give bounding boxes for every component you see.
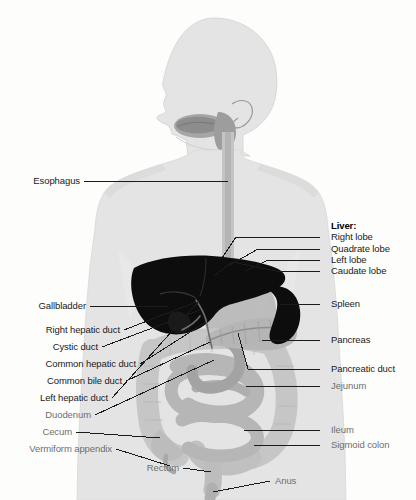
leader-common-hepatic-duct bbox=[140, 322, 206, 364]
label-right-hepatic-duct-text: Right hepatic duct bbox=[46, 324, 120, 335]
label-gallbladder-text: Gallbladder bbox=[39, 300, 87, 311]
label-jejunum-text: Jejunum bbox=[331, 380, 366, 391]
label-left-hepatic-duct-text: Left hepatic duct bbox=[40, 392, 108, 403]
label-pancreatic-duct[interactable]: Pancreatic duct bbox=[331, 363, 395, 374]
label-cecum-text: Cecum bbox=[42, 426, 72, 437]
leader-right-lobe bbox=[222, 237, 320, 258]
label-rectum[interactable]: Rectum bbox=[95, 462, 179, 473]
label-cystic-duct[interactable]: Cystic duct bbox=[0, 341, 98, 352]
leader-anus bbox=[213, 481, 270, 492]
label-ileum[interactable]: Ileum bbox=[331, 424, 354, 435]
label-anus-text: Anus bbox=[275, 475, 296, 486]
leader-common-bile-duct bbox=[126, 342, 210, 381]
label-caudate-lobe[interactable]: Caudate lobe bbox=[331, 265, 386, 276]
leader-cecum bbox=[76, 432, 160, 438]
label-pancreatic-duct-text: Pancreatic duct bbox=[331, 363, 395, 374]
label-esophagus-text: Esophagus bbox=[33, 175, 80, 186]
label-spleen-text: Spleen bbox=[331, 298, 360, 309]
label-common-hepatic-duct[interactable]: Common hepatic duct bbox=[0, 358, 136, 369]
label-left-lobe-text: Left lobe bbox=[331, 254, 367, 265]
label-sigmoid-colon-text: Sigmoid colon bbox=[331, 439, 389, 450]
label-common-bile-duct[interactable]: Common bile duct bbox=[0, 375, 122, 386]
label-pancreas-text: Pancreas bbox=[331, 334, 370, 345]
label-gallbladder[interactable]: Gallbladder bbox=[0, 300, 86, 311]
leader-left-hepatic-duct bbox=[112, 300, 200, 398]
label-quadrate-lobe-text: Quadrate lobe bbox=[331, 243, 390, 254]
leader-pancreatic-duct bbox=[238, 333, 320, 369]
label-caudate-lobe-text: Caudate lobe bbox=[331, 265, 386, 276]
label-left-hepatic-duct[interactable]: Left hepatic duct bbox=[0, 392, 108, 403]
label-ileum-text: Ileum bbox=[331, 424, 354, 435]
leader-quadrate-lobe bbox=[228, 249, 320, 266]
label-quadrate-lobe[interactable]: Quadrate lobe bbox=[331, 243, 390, 254]
label-vermiform-appendix[interactable]: Vermiform appendix bbox=[0, 443, 112, 454]
diagram-canvas: Esophagus Gallbladder Right hepatic duct… bbox=[0, 0, 416, 500]
label-liver-heading: Liver: bbox=[331, 220, 356, 231]
label-pancreas[interactable]: Pancreas bbox=[331, 334, 370, 345]
leader-rectum bbox=[183, 468, 211, 472]
label-spleen[interactable]: Spleen bbox=[331, 298, 360, 309]
label-liver-heading-text: Liver: bbox=[331, 220, 356, 231]
label-common-bile-duct-text: Common bile duct bbox=[47, 375, 122, 386]
label-vermiform-appendix-text: Vermiform appendix bbox=[29, 443, 112, 454]
label-cystic-duct-text: Cystic duct bbox=[53, 341, 98, 352]
label-jejunum[interactable]: Jejunum bbox=[331, 380, 366, 391]
label-duodenum-text: Duodenum bbox=[45, 409, 91, 420]
leader-caudate-lobe bbox=[214, 262, 320, 276]
label-anus[interactable]: Anus bbox=[275, 475, 296, 486]
label-esophagus[interactable]: Esophagus bbox=[0, 175, 80, 186]
label-rectum-text: Rectum bbox=[147, 462, 179, 473]
label-right-hepatic-duct[interactable]: Right hepatic duct bbox=[0, 324, 120, 335]
label-common-hepatic-duct-text: Common hepatic duct bbox=[45, 358, 136, 369]
label-left-lobe[interactable]: Left lobe bbox=[331, 254, 367, 265]
label-duodenum[interactable]: Duodenum bbox=[0, 409, 91, 420]
label-right-lobe-text: Right lobe bbox=[331, 231, 373, 242]
leader-left-lobe bbox=[246, 260, 320, 271]
label-right-lobe[interactable]: Right lobe bbox=[331, 231, 373, 242]
label-sigmoid-colon[interactable]: Sigmoid colon bbox=[331, 439, 389, 450]
label-cecum[interactable]: Cecum bbox=[0, 426, 72, 437]
